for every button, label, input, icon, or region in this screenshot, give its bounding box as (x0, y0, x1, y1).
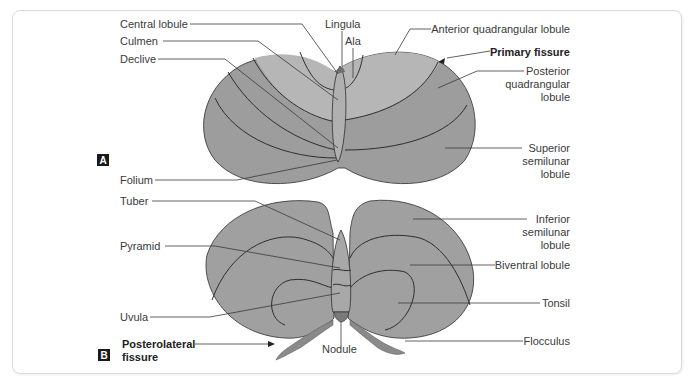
label-culmen: Culmen (120, 35, 158, 47)
label-inferior-semilunar-1: Inferior (536, 213, 571, 225)
label-posterior-quadrangular-3: lobule (541, 91, 570, 103)
panel-a-superior-view: Central lobule Culmen Declive Folium Lin… (97, 18, 570, 186)
label-declive: Declive (120, 53, 156, 65)
left-hemisphere-inferior (206, 201, 334, 339)
label-posterior-quadrangular-2: quadrangular (505, 78, 570, 90)
posterolateral-fissure-arrowhead (268, 341, 275, 347)
label-uvula: Uvula (120, 311, 149, 323)
label-anterior-quadrangular-lobule: Anterior quadrangular lobule (431, 23, 570, 35)
label-tonsil: Tonsil (542, 297, 570, 309)
cerebellum-diagram: Central lobule Culmen Declive Folium Lin… (0, 0, 693, 381)
label-posterior-quadrangular-1: Posterior (526, 65, 570, 77)
right-hemisphere-inferior (348, 200, 474, 338)
vermis-inferior (331, 230, 350, 312)
panel-b-badge-text: B (101, 350, 108, 361)
label-primary-fissure: Primary fissure (490, 46, 570, 58)
label-posterolateral-2: fissure (122, 351, 158, 363)
label-inferior-semilunar-3: lobule (541, 239, 570, 251)
label-ala: Ala (345, 35, 362, 47)
nodule-shape (334, 312, 349, 322)
label-flocculus: Flocculus (524, 335, 571, 347)
label-inferior-semilunar-2: semilunar (522, 226, 570, 238)
panel-a-badge-text: A (100, 155, 107, 166)
label-biventral-lobule: Biventral lobule (495, 259, 570, 271)
label-lingula: Lingula (325, 18, 361, 30)
label-pyramid: Pyramid (120, 240, 160, 252)
label-superior-semilunar-1: Superior (528, 142, 570, 154)
label-nodule: Nodule (322, 343, 357, 355)
label-superior-semilunar-2: semilunar (522, 155, 570, 167)
label-tuber: Tuber (120, 195, 149, 207)
label-posterolateral-1: Posterolateral (122, 338, 195, 350)
panel-b-inferior-view: Tuber Pyramid Uvula Posterolateral fissu… (98, 195, 570, 363)
label-central-lobule: Central lobule (120, 18, 188, 30)
label-superior-semilunar-3: lobule (541, 168, 570, 180)
label-folium: Folium (120, 174, 153, 186)
